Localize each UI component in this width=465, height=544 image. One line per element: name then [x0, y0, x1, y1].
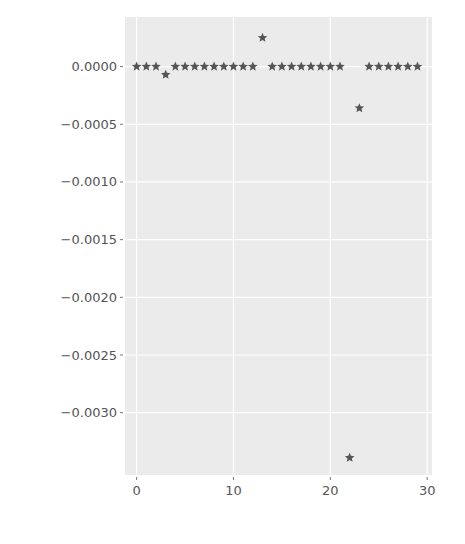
x-tick-label: 30 — [419, 483, 436, 498]
x-axis: 0102030 — [132, 477, 435, 498]
x-tick-label: 20 — [322, 483, 339, 498]
y-tick-label: −0.0020 — [61, 290, 117, 305]
plot-area — [125, 17, 432, 475]
y-tick-label: −0.0030 — [61, 405, 117, 420]
y-tick-label: −0.0005 — [61, 117, 117, 132]
x-tick-label: 0 — [132, 483, 140, 498]
scatter-chart: 0.0000−0.0005−0.0010−0.0015−0.0020−0.002… — [0, 0, 465, 544]
y-tick-label: 0.0000 — [72, 59, 118, 74]
y-axis: 0.0000−0.0005−0.0010−0.0015−0.0020−0.002… — [61, 59, 123, 420]
y-tick-label: −0.0015 — [61, 232, 117, 247]
x-tick-label: 10 — [225, 483, 242, 498]
y-tick-label: −0.0010 — [61, 174, 117, 189]
y-tick-label: −0.0025 — [61, 348, 117, 363]
